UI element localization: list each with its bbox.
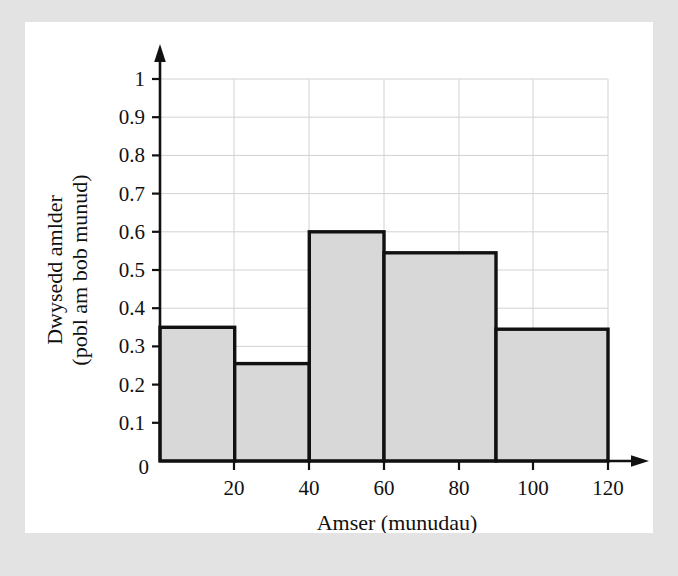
y-tick-label: 0.4 bbox=[119, 296, 146, 320]
x-tick-label: 40 bbox=[299, 476, 320, 500]
y-tick-label: 0.9 bbox=[119, 105, 145, 129]
x-axis-tick-labels: 20 40 60 80 100 120 bbox=[224, 476, 624, 500]
x-axis-title: Amser (munudau) bbox=[317, 510, 478, 533]
x-tick-label: 120 bbox=[592, 476, 624, 500]
y-tick-label: 1 bbox=[135, 67, 146, 91]
histogram-bar bbox=[384, 253, 496, 461]
y-axis-title-line2: (pobl am bob munud) bbox=[67, 174, 92, 365]
y-axis-tick-labels: 1 0.9 0.8 0.7 0.6 0.5 0.4 0.3 0.2 0.1 0 bbox=[119, 67, 149, 479]
x-tick-label: 100 bbox=[517, 476, 549, 500]
histogram-bar bbox=[309, 232, 384, 461]
y-axis-title-line1: Dwysedd amlder bbox=[42, 194, 67, 344]
scan-top-cut-text bbox=[0, 0, 678, 6]
histogram-bar bbox=[496, 329, 608, 461]
y-axis-arrowhead bbox=[154, 44, 166, 62]
histogram-bars bbox=[160, 232, 608, 461]
x-axis-arrowhead bbox=[631, 455, 649, 467]
x-tick-label: 80 bbox=[449, 476, 470, 500]
y-tick-label: 0.6 bbox=[119, 220, 145, 244]
figure-page: 1 0.9 0.8 0.7 0.6 0.5 0.4 0.3 0.2 0.1 0 … bbox=[0, 0, 678, 576]
histogram-plot: 1 0.9 0.8 0.7 0.6 0.5 0.4 0.3 0.2 0.1 0 … bbox=[25, 22, 653, 533]
y-tick-label-origin: 0 bbox=[139, 455, 150, 479]
x-tick-label: 20 bbox=[224, 476, 245, 500]
figure-card: 1 0.9 0.8 0.7 0.6 0.5 0.4 0.3 0.2 0.1 0 … bbox=[25, 22, 653, 533]
y-tick-label: 0.7 bbox=[119, 182, 145, 206]
y-tick-label: 0.1 bbox=[119, 411, 145, 435]
y-tick-label: 0.5 bbox=[119, 258, 145, 282]
histogram-bar bbox=[160, 327, 235, 461]
y-tick-label: 0.3 bbox=[119, 334, 145, 358]
histogram-bar bbox=[235, 364, 310, 461]
y-tick-label: 0.8 bbox=[119, 143, 145, 167]
y-tick-label: 0.2 bbox=[119, 373, 145, 397]
x-tick-label: 60 bbox=[374, 476, 395, 500]
